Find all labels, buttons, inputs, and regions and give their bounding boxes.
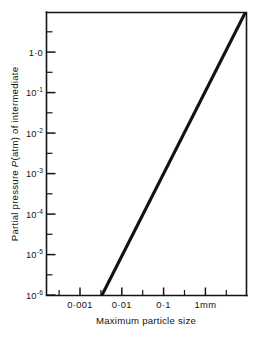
x-tick-label-1: 0·01 <box>112 299 132 310</box>
chart-svg: 1·0 10-1 10-2 10-3 10-4 10-5 10-6 0·001 … <box>0 0 257 339</box>
chart-figure: 1·0 10-1 10-2 10-3 10-4 10-5 10-6 0·001 … <box>0 0 257 339</box>
y-axis-title: Partial pressure P(atm) of intermediate <box>9 67 20 242</box>
x-tick-label-3: 1mm <box>195 299 217 310</box>
x-tick-label-2: 0·1 <box>156 299 170 310</box>
x-axis-title: Maximum particle size <box>96 315 196 326</box>
y-tick-label-0: 1·0 <box>29 47 43 58</box>
x-tick-label-0: 0·001 <box>67 299 92 310</box>
